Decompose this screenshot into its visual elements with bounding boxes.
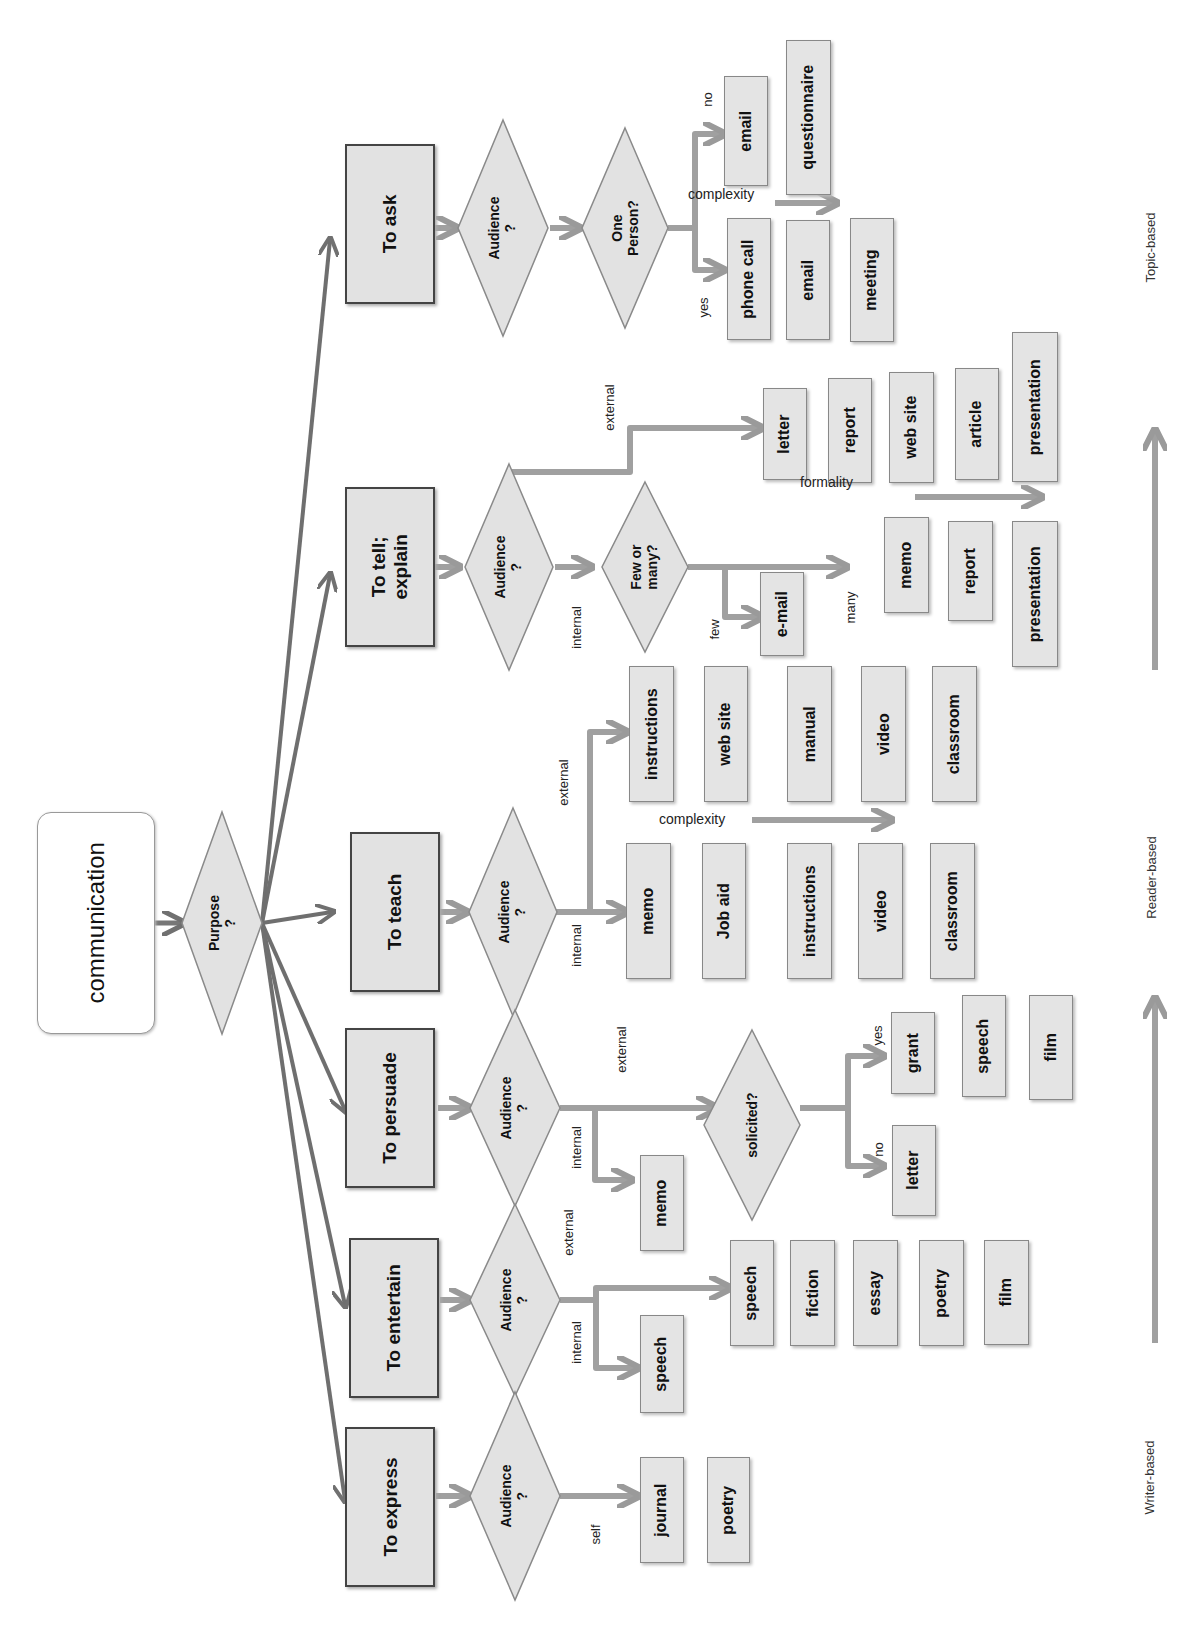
leaf-tell-presentation[interactable]: presentation: [1012, 332, 1058, 482]
leaf-label: presentation: [1026, 546, 1044, 642]
leaf-teach-job-aid[interactable]: Job aid: [702, 843, 746, 979]
leaf-teach-web-site[interactable]: web site: [704, 666, 748, 802]
purpose-label: To ask: [379, 195, 401, 254]
leaf-label: instructions: [642, 688, 660, 780]
leaf-entertain-fiction[interactable]: fiction: [790, 1240, 835, 1346]
leaf-ask-phone-call[interactable]: phone call: [727, 218, 771, 340]
diamond-express-audience: [470, 1392, 560, 1600]
leaf-tell-e-mail[interactable]: e-mail: [760, 572, 804, 656]
axis-label-topic-based: Topic-based: [1143, 212, 1158, 282]
diamond-tell-audience: [465, 464, 553, 670]
edge-label-few: few: [707, 619, 722, 639]
leaf-label: instructions: [800, 865, 818, 957]
edge-label-yes: yes: [696, 297, 711, 317]
purpose-to-persuade[interactable]: To persuade: [345, 1028, 435, 1188]
leaf-tell-memo[interactable]: memo: [884, 517, 929, 613]
leaf-label: article: [968, 400, 986, 447]
leaf-label: phone call: [740, 239, 758, 318]
leaf-label: letter: [905, 1151, 923, 1190]
leaf-teach-instructions-2[interactable]: instructions: [787, 843, 832, 979]
leaf-teach-classroom[interactable]: classroom: [932, 666, 977, 802]
edge-label-internal: internal: [569, 1126, 584, 1169]
scale-label-complexity: complexity: [659, 811, 725, 827]
arrow-to-entertain: [262, 923, 345, 1305]
diamond-purpose: [182, 812, 262, 1034]
leaf-label: e-mail: [773, 591, 791, 637]
scale-label-formality: formality: [800, 474, 853, 490]
root-node-communication[interactable]: communication: [37, 812, 155, 1034]
purpose-to-tell-explain[interactable]: To tell; explain: [345, 487, 435, 647]
leaf-persuade-film[interactable]: film: [1029, 995, 1073, 1100]
leaf-label: manual: [800, 706, 818, 762]
leaf-teach-classroom-2[interactable]: classroom: [930, 843, 975, 979]
leaf-label: grant: [904, 1033, 922, 1073]
leaf-label: memo: [639, 887, 657, 934]
leaf-persuade-letter[interactable]: letter: [892, 1125, 936, 1216]
purpose-label: To express: [379, 1458, 401, 1557]
leaf-ask-meeting[interactable]: meeting: [850, 218, 894, 342]
leaf-label: speech: [975, 1018, 993, 1073]
leaf-persuade-memo[interactable]: memo: [640, 1155, 684, 1251]
leaf-teach-manual[interactable]: manual: [787, 666, 832, 802]
axis-label-reader-based: Reader-based: [1144, 836, 1159, 918]
leaf-label: essay: [866, 1271, 884, 1316]
leaf-entertain-speech[interactable]: speech: [640, 1315, 684, 1413]
leaf-tell-report[interactable]: report: [828, 378, 872, 483]
leaf-label: memo: [653, 1179, 671, 1226]
leaf-ask-email[interactable]: email: [724, 76, 768, 186]
edge-label-external: external: [561, 1209, 576, 1255]
edge-label-external: external: [614, 1026, 629, 1072]
leaf-tell-report-2[interactable]: report: [948, 521, 993, 621]
diamond-persuade-audience: [470, 1010, 560, 1206]
leaf-tell-letter[interactable]: letter: [763, 388, 807, 480]
leaf-persuade-speech[interactable]: speech: [962, 995, 1006, 1097]
leaf-label: poetry: [932, 1269, 950, 1318]
leaf-express-poetry[interactable]: poetry: [707, 1457, 750, 1563]
purpose-label: To tell; explain: [368, 534, 412, 599]
leaf-label: video: [871, 890, 889, 932]
leaf-label: web site: [717, 702, 735, 765]
leaf-label: film: [1042, 1033, 1060, 1061]
edge-label-internal: internal: [569, 1321, 584, 1364]
leaf-label: classroom: [943, 871, 961, 951]
arrow-to-ask: [262, 240, 330, 923]
purpose-label: To teach: [384, 874, 406, 951]
edge-label-yes: yes: [870, 1025, 885, 1045]
leaf-tell-web-site[interactable]: web site: [889, 372, 934, 483]
leaf-teach-video-2[interactable]: video: [858, 843, 903, 979]
edge-label-internal: internal: [569, 606, 584, 649]
leaf-label: report: [841, 407, 859, 453]
leaf-ask-email-2[interactable]: email: [786, 220, 830, 340]
edge-label-many: many: [843, 592, 858, 624]
leaf-entertain-poetry[interactable]: poetry: [919, 1240, 964, 1346]
leaf-ask-questionnaire[interactable]: questionnaire: [786, 40, 831, 195]
root-label: communication: [82, 842, 110, 1003]
diamond-solicited: [704, 1030, 800, 1220]
leaf-teach-instructions[interactable]: instructions: [629, 666, 674, 802]
leaf-tell-presentation-2[interactable]: presentation: [1012, 521, 1058, 667]
leaf-label: speech: [653, 1336, 671, 1391]
arrow-to-tell: [262, 575, 330, 923]
leaf-label: memo: [897, 541, 915, 588]
edge-label-external: external: [556, 759, 571, 805]
leaf-label: questionnaire: [799, 65, 817, 170]
leaf-express-journal[interactable]: journal: [640, 1457, 684, 1563]
leaf-entertain-speech-2[interactable]: speech: [730, 1240, 774, 1346]
purpose-to-ask[interactable]: To ask: [345, 144, 435, 304]
leaf-label: email: [799, 260, 817, 301]
leaf-teach-memo[interactable]: memo: [626, 843, 671, 979]
diamond-few-many: [602, 482, 688, 652]
leaf-entertain-film[interactable]: film: [984, 1240, 1029, 1345]
purpose-label: To entertain: [383, 1264, 405, 1371]
leaf-label: video: [874, 713, 892, 755]
leaf-teach-video[interactable]: video: [861, 666, 906, 802]
purpose-to-teach[interactable]: To teach: [350, 832, 440, 992]
purpose-to-entertain[interactable]: To entertain: [349, 1238, 439, 1398]
purpose-to-express[interactable]: To express: [345, 1427, 435, 1587]
leaf-entertain-essay[interactable]: essay: [853, 1240, 898, 1346]
leaf-label: poetry: [719, 1486, 737, 1535]
leaf-label: speech: [743, 1265, 761, 1320]
leaf-tell-article[interactable]: article: [955, 368, 999, 480]
leaf-persuade-grant[interactable]: grant: [891, 1012, 935, 1094]
arrow-to-express: [262, 923, 345, 1500]
